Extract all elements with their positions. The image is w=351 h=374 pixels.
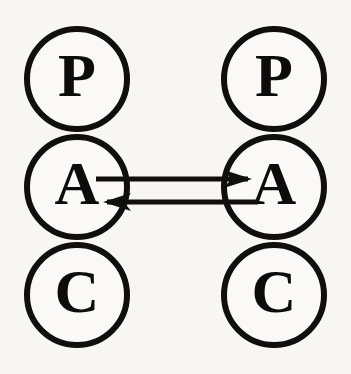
ego-label-right-adult: A (252, 149, 297, 217)
ego-state-right-adult[interactable]: A (224, 137, 324, 237)
person-left-stack: P A C (27, 29, 127, 345)
ego-label-right-parent: P (255, 41, 293, 109)
ego-label-left-adult: A (55, 149, 100, 217)
ego-state-left-parent[interactable]: P (27, 29, 127, 129)
pac-diagram-canvas: P A C P A C (0, 0, 351, 374)
ego-label-left-parent: P (58, 41, 96, 109)
ego-state-left-adult[interactable]: A (27, 137, 127, 237)
ego-state-right-parent[interactable]: P (224, 29, 324, 129)
person-right-stack: P A C (224, 29, 324, 345)
ego-state-left-child[interactable]: C (27, 245, 127, 345)
pac-diagram: P A C P A C (0, 0, 351, 374)
ego-label-left-child: C (55, 257, 100, 325)
ego-label-right-child: C (252, 257, 297, 325)
ego-state-right-child[interactable]: C (224, 245, 324, 345)
